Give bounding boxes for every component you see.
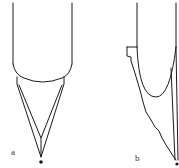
panel-b-label: b xyxy=(135,154,140,163)
panel-b-inner-line xyxy=(171,68,175,160)
panel-b-tip-dot xyxy=(175,162,178,165)
panel-a-drawing xyxy=(13,3,72,164)
diagram-canvas xyxy=(0,0,179,168)
panel-b-jagged-edge xyxy=(127,47,176,160)
panel-b-right-edge xyxy=(176,47,178,160)
panel-a-tip-dot xyxy=(39,160,43,164)
panel-b-drawing xyxy=(127,3,179,166)
panel-b-u-curve xyxy=(137,47,176,97)
panel-a-label: a xyxy=(11,148,15,157)
panel-a-rounded-end xyxy=(13,64,72,82)
